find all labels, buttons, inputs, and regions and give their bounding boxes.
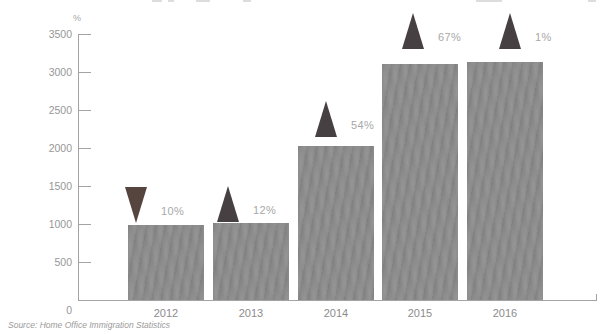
percent-change-label: 10% xyxy=(161,204,184,218)
increase-triangle-icon xyxy=(499,13,521,49)
y-axis-tick-label: 2000 xyxy=(32,142,72,154)
x-axis-label-2016: 2016 xyxy=(475,307,535,319)
y-axis-tick-label: 500 xyxy=(32,256,72,268)
cropped-text-fragment xyxy=(588,0,596,2)
y-axis-tick-label: 3500 xyxy=(32,28,72,40)
bar-2012 xyxy=(128,225,204,300)
y-axis-zero-label: 0 xyxy=(42,304,72,316)
y-axis-tick xyxy=(78,186,91,187)
bar-2016 xyxy=(467,62,543,300)
y-axis-tick-label: 1500 xyxy=(32,180,72,192)
x-axis-label-2012: 2012 xyxy=(136,307,196,319)
y-axis-tick-label: 2500 xyxy=(32,104,72,116)
bar-2015 xyxy=(382,64,458,300)
cropped-text-fragment xyxy=(243,0,251,2)
y-axis-tick xyxy=(78,148,91,149)
cropped-text-fragment xyxy=(168,0,174,2)
cropped-text-fragment xyxy=(476,0,502,2)
x-axis-label-2013: 2013 xyxy=(221,307,281,319)
cropped-text-fragment xyxy=(196,0,210,2)
y-axis-tick xyxy=(78,224,91,225)
cropped-text-fragment xyxy=(152,0,162,2)
increase-triangle-icon xyxy=(315,101,337,137)
y-axis-unit-label: % xyxy=(73,13,81,23)
y-axis-line xyxy=(78,34,79,300)
bar-2014 xyxy=(298,146,374,300)
x-axis-label-2015: 2015 xyxy=(390,307,450,319)
y-axis-tick xyxy=(78,72,91,73)
y-axis-tick-label: 3000 xyxy=(32,66,72,78)
decrease-triangle-icon xyxy=(125,187,147,223)
x-axis-label-2014: 2014 xyxy=(306,307,366,319)
source-note: Source: Home Office Immigration Statisti… xyxy=(8,320,170,330)
percent-change-label: 54% xyxy=(351,118,374,132)
x-axis-end-tick xyxy=(596,294,597,301)
y-axis-tick xyxy=(78,262,91,263)
y-axis-tick xyxy=(78,34,91,35)
percent-change-label: 67% xyxy=(438,30,461,44)
y-axis-tick-label: 1000 xyxy=(32,218,72,230)
bar-2013 xyxy=(213,223,289,300)
percent-change-label: 1% xyxy=(535,30,552,44)
y-axis-tick xyxy=(78,110,91,111)
increase-triangle-icon xyxy=(217,186,239,222)
x-axis-line xyxy=(78,300,597,301)
increase-triangle-icon xyxy=(402,13,424,49)
bar-chart: % 0 35003000250020001500100050010%201212… xyxy=(0,0,609,334)
percent-change-label: 12% xyxy=(253,203,276,217)
